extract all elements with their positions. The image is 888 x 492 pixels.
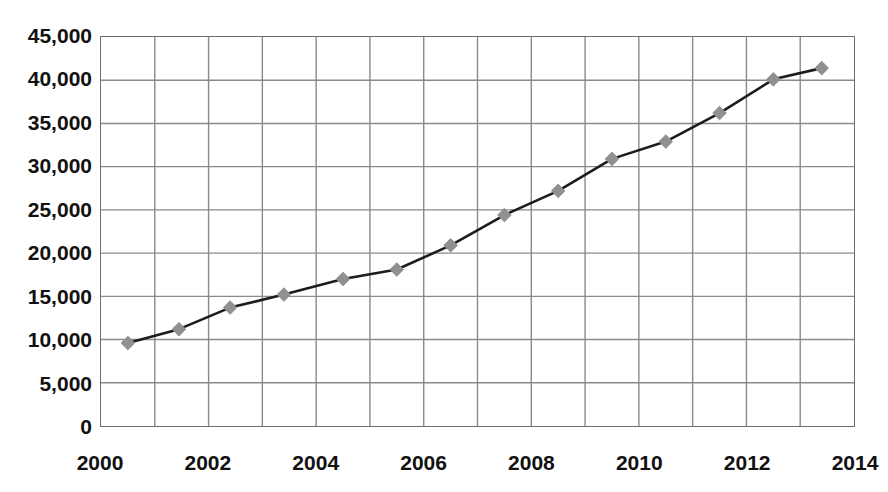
data-point-marker xyxy=(390,263,404,277)
x-axis-tick-label: 2004 xyxy=(271,452,361,473)
data-series xyxy=(121,61,828,349)
data-point-marker xyxy=(605,152,619,166)
x-axis-tick-label: 2012 xyxy=(702,452,792,473)
x-axis-tick-label: 2002 xyxy=(163,452,253,473)
data-point-marker xyxy=(659,135,673,149)
data-point-marker xyxy=(815,61,829,75)
x-axis-tick-label: 2006 xyxy=(379,452,469,473)
plot-canvas xyxy=(101,37,854,426)
data-point-marker xyxy=(551,184,565,198)
x-axis-tick-label: 2008 xyxy=(486,452,576,473)
plot-area xyxy=(100,36,855,427)
x-axis-tick-label: 2010 xyxy=(594,452,684,473)
line-chart: 05,00010,00015,00020,00025,00030,00035,0… xyxy=(0,0,888,492)
data-point-marker xyxy=(172,322,186,336)
data-point-marker xyxy=(121,336,135,350)
data-point-marker xyxy=(277,288,291,302)
data-point-marker xyxy=(336,272,350,286)
data-point-marker xyxy=(713,106,727,120)
data-point-marker xyxy=(767,73,781,87)
data-point-marker xyxy=(223,301,237,315)
x-axis-tick-label: 2014 xyxy=(810,452,888,473)
data-point-marker xyxy=(444,239,458,253)
x-axis-tick-label: 2000 xyxy=(55,452,145,473)
